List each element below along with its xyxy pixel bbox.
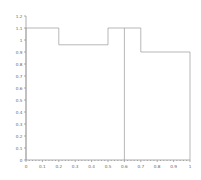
x-tick-label: 0.8: [154, 164, 161, 169]
x-tick-label: 0.6: [121, 164, 128, 169]
x-tick-label: 0.9: [170, 164, 177, 169]
y-tick-label: 1.2: [16, 14, 23, 19]
x-tick-label: 0: [25, 164, 28, 169]
x-tick-label: 0.2: [55, 164, 62, 169]
y-tick-label: 0.3: [16, 122, 23, 127]
step-histogram-chart: 00.10.20.30.40.50.60.70.80.911.11.2 00.1…: [0, 0, 201, 180]
y-axis-tick-labels: 00.10.20.30.40.50.60.70.80.911.11.2: [16, 14, 23, 163]
x-tick-label: 0.7: [137, 164, 144, 169]
y-tick-label: 0: [20, 158, 23, 163]
y-tick-label: 0.9: [16, 50, 23, 55]
y-tick-label: 0.4: [16, 110, 23, 115]
x-tick-label: 0.4: [88, 164, 95, 169]
step-outline-path: [26, 28, 190, 160]
y-tick-label: 0.5: [16, 98, 23, 103]
y-tick-label: 1: [20, 38, 23, 43]
chart-container: 00.10.20.30.40.50.60.70.80.911.11.2 00.1…: [0, 0, 201, 180]
y-tick-label: 0.8: [16, 62, 23, 67]
x-tick-label: 1: [189, 164, 192, 169]
x-tick-label: 0.5: [105, 164, 112, 169]
y-tick-label: 0.7: [16, 74, 23, 79]
x-tick-label: 0.1: [39, 164, 46, 169]
y-tick-label: 1.1: [16, 26, 23, 31]
x-tick-label: 0.3: [72, 164, 79, 169]
y-tick-label: 0.1: [16, 146, 23, 151]
y-tick-label: 0.6: [16, 86, 23, 91]
x-axis-tick-labels: 00.10.20.30.40.50.60.70.80.91: [25, 164, 192, 169]
y-tick-label: 0.2: [16, 134, 23, 139]
